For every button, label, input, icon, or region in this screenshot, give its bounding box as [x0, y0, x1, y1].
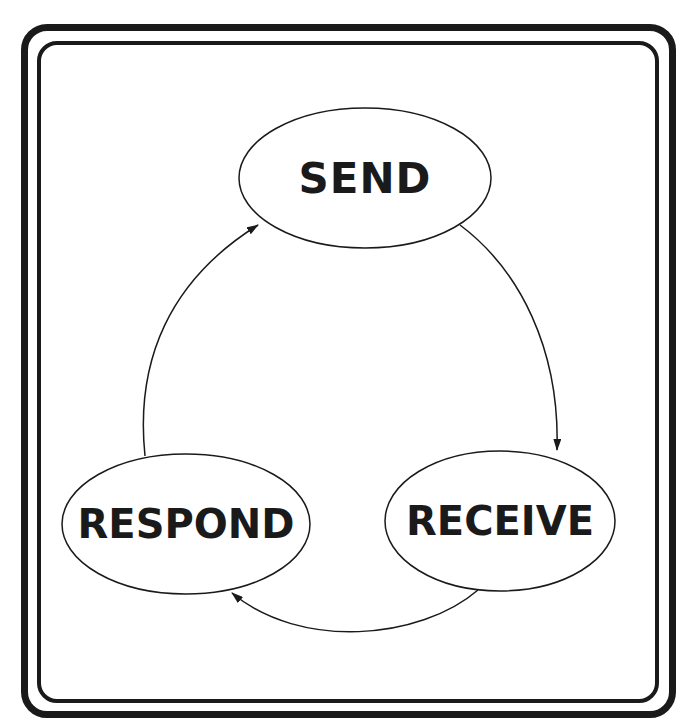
- arrow-respond-to-send: [143, 225, 258, 456]
- cycle-diagram: SEND RECEIVE RESPOND: [0, 0, 691, 720]
- arrow-send-to-receive: [460, 225, 557, 450]
- node-send: SEND: [239, 108, 491, 248]
- node-receive-label: RECEIVE: [406, 498, 594, 544]
- node-respond-label: RESPOND: [78, 501, 295, 547]
- arrow-receive-to-respond: [232, 590, 478, 632]
- node-send-label: SEND: [299, 154, 432, 203]
- node-receive: RECEIVE: [385, 451, 615, 591]
- node-respond: RESPOND: [62, 454, 310, 594]
